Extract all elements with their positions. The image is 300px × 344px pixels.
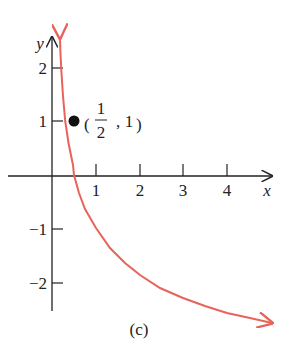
- y-tick-label: −2: [29, 274, 47, 293]
- annotation-numerator: 1: [97, 99, 106, 118]
- figure-caption: (c): [130, 320, 149, 339]
- annotation-denominator: 2: [97, 123, 106, 142]
- log-chart: 1 2 3 4 x 2 1 −1 −2 y ( 1 2 , 1 ) (c): [0, 0, 300, 344]
- y-tick-label: 2: [39, 59, 48, 78]
- x-axis-label: x: [262, 181, 271, 200]
- x-ticks: [96, 164, 227, 176]
- point-annotation: ( 1 2 , 1 ): [84, 99, 142, 142]
- svg-text:(: (: [84, 115, 90, 134]
- x-tick-label: 1: [92, 181, 101, 200]
- y-tick-label: −1: [29, 220, 47, 239]
- svg-text:,: ,: [116, 112, 120, 131]
- annotation-y: 1: [125, 112, 134, 131]
- y-axis-label: y: [34, 34, 44, 53]
- highlight-point: [69, 116, 80, 127]
- y-tick-label: 1: [39, 112, 48, 131]
- x-tick-label: 2: [136, 181, 145, 200]
- x-tick-label: 3: [179, 181, 188, 200]
- svg-text:): ): [136, 115, 142, 134]
- x-tick-label: 4: [223, 181, 232, 200]
